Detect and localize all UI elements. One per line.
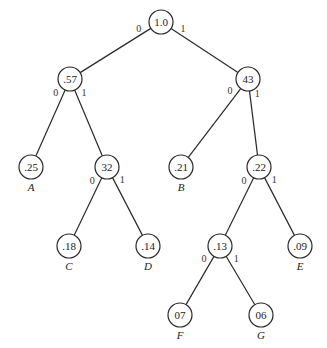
node-value: .13 <box>213 240 227 252</box>
tree-node: .57 <box>58 67 82 91</box>
leaf-symbol-label: B <box>178 181 185 193</box>
node-value: 07 <box>175 309 187 321</box>
edge-bit-label: 0 <box>201 253 206 264</box>
node-value: 43 <box>243 73 255 85</box>
tree-node: 43 <box>236 67 260 91</box>
tree-edge <box>188 89 240 158</box>
tree-node: 07F <box>168 303 192 341</box>
edge-bit-label: 1 <box>255 88 260 99</box>
leaf-symbol-label: E <box>296 260 304 272</box>
edge-bit-label: 0 <box>228 85 233 96</box>
huffman-tree-diagram: 010101010101 1.0.5743.25A32.21B.22.18C.1… <box>0 0 327 348</box>
node-value: .21 <box>174 161 188 173</box>
leaf-symbol-label: D <box>143 260 152 272</box>
tree-edge <box>186 256 214 304</box>
tree-node: .18C <box>57 234 81 272</box>
tree-node: .13 <box>208 234 232 258</box>
tree-edge <box>265 178 295 236</box>
tree-node: 32 <box>95 155 119 179</box>
tree-edge <box>75 90 103 156</box>
tree-edge <box>36 90 65 156</box>
tree-edge <box>113 178 143 236</box>
leaf-symbol-label: F <box>176 329 184 341</box>
edge-bit-label: 0 <box>242 175 247 186</box>
edge-bit-label: 1 <box>234 253 239 264</box>
edge-bit-label: 0 <box>53 87 58 98</box>
tree-edge <box>74 178 102 235</box>
nodes-layer: 1.0.5743.25A32.21B.22.18C.14D.13.09E07F0… <box>19 10 312 341</box>
node-value: .18 <box>62 240 76 252</box>
node-value: 1.0 <box>154 16 168 28</box>
tree-edge <box>225 178 253 235</box>
tree-node: .22 <box>247 155 271 179</box>
tree-node: 06G <box>249 303 273 341</box>
edge-bit-label: 1 <box>81 87 86 98</box>
edge-bit-label: 1 <box>120 174 125 185</box>
tree-edge <box>80 28 151 72</box>
leaf-symbol-label: G <box>257 329 265 341</box>
edge-labels-layer: 010101010101 <box>53 23 277 264</box>
node-value: .09 <box>293 240 307 252</box>
tree-node: .14D <box>136 234 160 272</box>
node-value: 06 <box>256 309 268 321</box>
tree-svg: 010101010101 1.0.5743.25A32.21B.22.18C.1… <box>0 0 327 348</box>
leaf-symbol-label: A <box>27 181 35 193</box>
node-value: .25 <box>24 161 38 173</box>
tree-node: .09E <box>288 234 312 272</box>
node-value: 32 <box>102 161 113 173</box>
edge-bit-label: 0 <box>90 175 95 186</box>
tree-edge <box>249 91 257 155</box>
leaf-symbol-label: C <box>65 260 73 272</box>
tree-node: .21B <box>169 155 193 193</box>
node-value: .22 <box>252 161 266 173</box>
edge-bit-label: 1 <box>181 23 186 34</box>
node-value: .14 <box>141 240 155 252</box>
node-value: .57 <box>63 73 77 85</box>
edge-bit-label: 1 <box>272 174 277 185</box>
tree-node: .25A <box>19 155 43 193</box>
edge-bit-label: 0 <box>136 23 141 34</box>
tree-edge <box>171 29 238 73</box>
tree-edge <box>226 256 255 304</box>
tree-node: 1.0 <box>149 10 173 34</box>
